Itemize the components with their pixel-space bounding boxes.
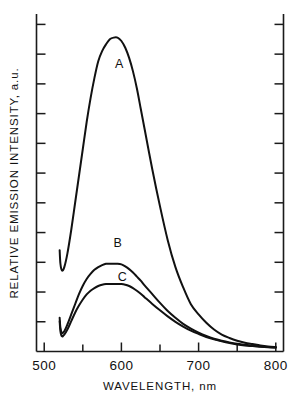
emission-spectra-figure: 500600700800 ABC WAVELENGTH, nm RELATIVE… (0, 0, 307, 402)
y-axis-title: RELATIVE EMISSION INTENSITY, a.u. (8, 67, 20, 298)
x-axis-tick-labels: 500600700800 (32, 358, 288, 373)
y-axis-ticks-right (275, 24, 284, 321)
x-tick-label: 500 (32, 358, 56, 373)
series-label-b: B (113, 236, 121, 250)
emission-spectra-chart: 500600700800 ABC WAVELENGTH, nm RELATIVE… (0, 0, 307, 402)
x-tick-label: 800 (264, 358, 288, 373)
spectrum-curve-b (60, 264, 276, 348)
series-annotations: ABC (113, 57, 126, 284)
x-axis-title: WAVELENGTH, nm (103, 380, 217, 392)
x-tick-label: 600 (109, 358, 133, 373)
axes-frame (37, 14, 284, 352)
y-axis-ticks-left (37, 24, 46, 321)
spectra-curves (60, 37, 276, 347)
series-label-c: C (118, 270, 127, 284)
x-tick-label: 700 (187, 358, 211, 373)
spectrum-curve-c (60, 284, 276, 348)
series-label-a: A (115, 57, 124, 71)
spectrum-curve-a (60, 37, 276, 347)
